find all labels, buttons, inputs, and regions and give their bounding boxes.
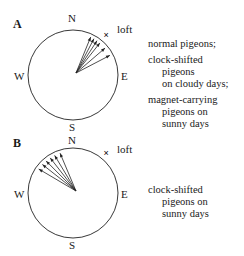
legend-item-clock-cloudy: clock-shifted pigeons on cloudy days;	[148, 54, 229, 90]
vanishing-bearing-line	[42, 164, 76, 191]
panel-letter-a: A	[13, 17, 22, 32]
legend-line: normal pigeons;	[148, 38, 229, 50]
loft-label-b: loft	[117, 143, 132, 155]
compass-west-b: W	[14, 188, 24, 200]
compass-east-b: E	[121, 188, 128, 200]
arrowhead-icon	[88, 37, 91, 41]
compass-circle-b	[28, 148, 118, 238]
legend-b: clock-shifted pigeons on sunny days	[148, 184, 209, 224]
compass-south-b: S	[69, 239, 75, 251]
legend-item-normal: normal pigeons;	[148, 38, 229, 50]
arrowhead-icon	[60, 153, 63, 157]
legend-line: on cloudy days;	[148, 78, 229, 90]
legend-line: clock-shifted	[148, 54, 229, 66]
loft-marker-a: ×	[103, 30, 108, 40]
legend-line: pigeons on	[148, 196, 209, 208]
legend-line: clock-shifted	[148, 184, 209, 196]
legend-a: normal pigeons; clock-shifted pigeons on…	[148, 38, 229, 134]
vanishing-bearing-line	[76, 37, 91, 73]
arrowhead-icon	[93, 41, 97, 45]
legend-item-magnet: magnet-carrying pigeons on sunny days	[148, 94, 229, 130]
vanishing-arrows-a	[76, 37, 110, 73]
vanishing-bearing-line	[76, 43, 100, 73]
arrowhead-icon	[106, 55, 110, 58]
arrowhead-icon	[55, 155, 58, 159]
compass-circle-a	[28, 30, 118, 120]
compass-east-a: E	[121, 70, 128, 82]
legend-item-clock-sunny: clock-shifted pigeons on sunny days	[148, 184, 209, 220]
vanishing-bearing-line	[76, 39, 94, 73]
legend-line: sunny days	[148, 208, 209, 220]
loft-marker-b: ×	[103, 148, 108, 158]
compass-south-a: S	[69, 121, 75, 133]
legend-line: magnet-carrying	[148, 94, 229, 106]
panel-letter-b: B	[13, 136, 21, 151]
compass-north-a: N	[68, 12, 76, 24]
legend-line: pigeons	[148, 66, 229, 78]
compass-west-a: W	[14, 70, 24, 82]
legend-line: sunny days	[148, 118, 229, 130]
arrowhead-icon	[91, 39, 94, 43]
vanishing-bearing-line	[50, 158, 76, 191]
vanishing-bearing-line	[76, 41, 97, 73]
vanishing-bearing-line	[60, 153, 76, 191]
compass-north-b: N	[68, 134, 76, 146]
legend-line: pigeons on	[148, 106, 229, 118]
loft-label-a: loft	[117, 23, 132, 35]
arrowhead-icon	[39, 169, 43, 172]
